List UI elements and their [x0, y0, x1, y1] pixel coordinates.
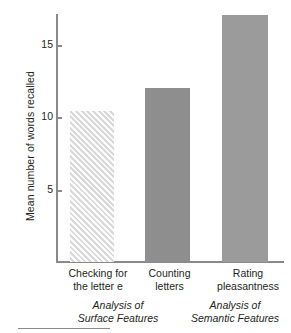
footer-divider	[18, 328, 110, 329]
y-tick-15: 15	[57, 45, 62, 47]
x-axis-group-labels: Analysis of Surface Features Analysis of…	[50, 299, 290, 329]
group-label-line-2: Surface Features	[58, 312, 178, 325]
group-label-semantic-features: Analysis of Semantic Features	[176, 299, 291, 325]
x-label-rating-pleasantness: Rating pleasantness	[202, 267, 291, 293]
y-tick-10: 10	[57, 117, 62, 119]
group-label-line-1: Analysis of	[58, 299, 178, 312]
group-label-line-1: Analysis of	[176, 299, 291, 312]
x-label-line-1: Counting	[132, 267, 207, 280]
x-label-line-1: Checking for	[53, 267, 143, 280]
y-axis-line	[56, 14, 58, 263]
x-label-line-1: Rating	[202, 267, 291, 280]
x-axis-labels: Checking for the letter e Counting lette…	[56, 267, 288, 297]
plot-area: 15 10 5	[56, 14, 284, 263]
y-axis-title: Mean number of words recalled	[24, 41, 36, 251]
bar-chart-figure: Mean number of words recalled 15 10 5 Ch…	[0, 0, 291, 333]
group-label-line-2: Semantic Features	[176, 312, 291, 325]
x-label-line-2: letters	[132, 280, 207, 293]
bar-rating-pleasantness	[222, 15, 268, 262]
y-tick-5: 5	[57, 190, 62, 192]
y-tick-label-15: 15	[29, 38, 53, 50]
bar-counting-letters	[145, 88, 190, 262]
y-tick-label-10: 10	[29, 110, 53, 122]
x-label-counting-letters: Counting letters	[132, 267, 207, 293]
y-tick-label-5: 5	[29, 183, 53, 195]
group-label-surface-features: Analysis of Surface Features	[58, 299, 178, 325]
x-label-line-2: the letter e	[53, 280, 143, 293]
x-label-line-2: pleasantness	[202, 280, 291, 293]
bar-checking-for-the-letter-e	[70, 111, 114, 262]
x-label-checking-for-the-letter-e: Checking for the letter e	[53, 267, 143, 293]
